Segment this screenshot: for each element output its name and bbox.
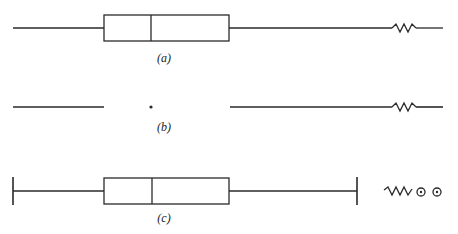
panel-label-b: (b) (157, 120, 171, 134)
panel-b: (b) (13, 103, 443, 134)
outlier-circle-icon (433, 188, 441, 196)
axis-break-zigzag-icon (384, 187, 412, 195)
panel-a: (a) (13, 15, 443, 65)
boxplot-diagram: (a) (b) (c) (0, 0, 458, 234)
median-dot (149, 105, 152, 108)
axis-break-zigzag-icon (392, 24, 416, 32)
box (104, 15, 229, 41)
axis-break-zigzag-icon (392, 103, 416, 111)
outlier-circle-icon (417, 188, 425, 196)
panel-c: (c) (13, 177, 441, 225)
panel-label-c: (c) (157, 211, 170, 225)
box (104, 178, 229, 204)
panel-label-a: (a) (157, 51, 171, 65)
